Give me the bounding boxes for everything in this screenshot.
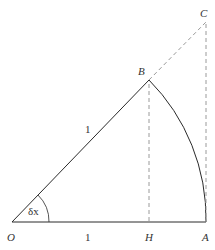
label-A: A <box>201 231 209 243</box>
segment-OB <box>12 80 149 222</box>
label-B: B <box>138 65 145 77</box>
label-radius-one: 1 <box>85 123 91 135</box>
label-base-one: 1 <box>85 231 91 243</box>
label-C: C <box>200 7 208 19</box>
label-H: H <box>144 231 154 243</box>
label-angle-dx: δx <box>28 205 39 217</box>
arc-BA <box>149 80 206 222</box>
segment-BC <box>149 22 206 80</box>
angle-arc <box>38 195 49 222</box>
label-O: O <box>7 231 15 243</box>
unit-circle-diagram: C B 1 δx O 1 H A <box>0 0 215 250</box>
